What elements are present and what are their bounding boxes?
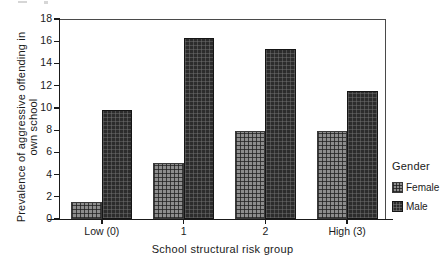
x-axis-tick xyxy=(101,219,102,224)
y-axis-tick-label: 18 xyxy=(30,12,52,24)
bar-group-container xyxy=(59,19,386,219)
bar-female-0 xyxy=(71,202,102,219)
x-axis-tick-label: High (3) xyxy=(307,225,387,237)
bar-male-2 xyxy=(265,49,296,219)
x-axis-tick xyxy=(346,219,347,224)
legend-title: Gender xyxy=(392,160,443,172)
bar-female-1 xyxy=(153,163,184,219)
bar-female-2 xyxy=(235,131,266,219)
legend-item-male: Male xyxy=(392,201,443,212)
bar-male-3 xyxy=(347,91,378,219)
y-axis-tick-label: 2 xyxy=(30,190,52,202)
y-axis-tick-label: 0 xyxy=(30,212,52,224)
y-axis-tick-label: 6 xyxy=(30,145,52,157)
y-axis-tick-label: 16 xyxy=(30,34,52,46)
y-axis-tick-label: 12 xyxy=(30,79,52,91)
female-swatch-icon xyxy=(392,182,403,193)
y-axis-tick-label: 14 xyxy=(30,56,52,68)
bar-chart-figure: Prevalence of aggressive offending in ow… xyxy=(0,0,443,267)
x-axis-tick xyxy=(183,219,184,224)
y-axis-tick-label: 10 xyxy=(30,101,52,113)
y-axis-title-line1: Prevalence of aggressive offending in xyxy=(15,32,27,223)
bar-female-3 xyxy=(317,131,348,219)
y-axis-tick-label: 8 xyxy=(30,123,52,135)
legend-label-male: Male xyxy=(406,201,428,212)
y-axis-tick-label: 4 xyxy=(30,168,52,180)
x-axis-tick xyxy=(265,219,266,224)
bar-male-0 xyxy=(102,110,133,219)
x-axis-tick-label: 1 xyxy=(144,225,224,237)
x-axis-tick-label: 2 xyxy=(225,225,305,237)
x-axis-tick-label: Low (0) xyxy=(62,225,142,237)
x-axis-title: School structural risk group xyxy=(59,243,386,255)
legend-label-female: Female xyxy=(406,182,439,193)
male-swatch-icon xyxy=(392,201,403,212)
legend: Gender Female Male xyxy=(392,160,443,220)
legend-item-female: Female xyxy=(392,182,443,193)
bar-male-1 xyxy=(184,38,215,219)
scan-artifact xyxy=(18,1,78,7)
